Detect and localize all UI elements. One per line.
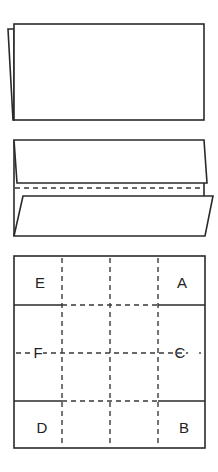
front-layer [14,24,204,120]
top-flap [14,140,207,183]
label-d: D [37,419,48,436]
label-f: F [33,344,42,361]
step3-grid-square: E A F C D B [14,256,205,448]
bottom-flap [14,196,213,236]
label-a: A [177,274,187,291]
step2-folded-to-center [14,140,213,236]
origami-diagram: E A F C D B [0,0,218,472]
label-e: E [35,274,45,291]
step1-folded-sheet [8,24,204,120]
label-c: C [175,344,186,361]
label-c-bg [188,344,199,362]
label-b: B [179,419,189,436]
back-layer [8,29,14,120]
